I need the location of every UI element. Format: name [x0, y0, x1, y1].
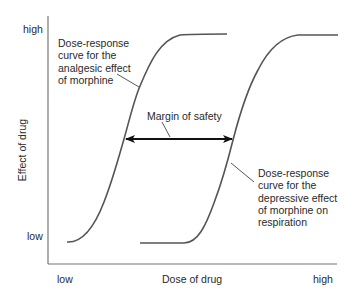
analgesic-annotation-line: Dose-response [58, 37, 131, 49]
y-tick-low: low [27, 230, 43, 242]
x-tick-low: low [57, 273, 73, 285]
plot-area [0, 0, 356, 295]
respiratory-annotation-line: respiration [258, 216, 337, 228]
respiratory-annotation-line: depressive effect [258, 192, 337, 204]
margin-of-safety-label: Margin of safety [147, 110, 222, 122]
margin-leader-line [162, 122, 170, 137]
y-tick-high: high [23, 23, 43, 35]
y-axis-title: Effect of drug [16, 119, 28, 181]
respiratory-annotation: Dose-response curve for the depressive e… [258, 167, 337, 228]
respiratory-annotation-line: curve for the [258, 179, 337, 191]
respiratory-annotation-line: Dose-response [258, 167, 337, 179]
analgesic-annotation-line: curve for the [58, 49, 131, 61]
respiratory-leader-line [231, 163, 254, 182]
analgesic-annotation-line: of morphine [58, 74, 131, 86]
respiratory-annotation-line: of morphine on [258, 204, 337, 216]
x-axis-title: Dose of drug [162, 273, 222, 285]
analgesic-annotation: Dose-response curve for the analgesic ef… [58, 37, 131, 86]
dose-response-figure: high low low high Effect of drug Dose of… [0, 0, 356, 295]
x-tick-high: high [313, 273, 333, 285]
analgesic-annotation-line: analgesic effect [58, 62, 131, 74]
